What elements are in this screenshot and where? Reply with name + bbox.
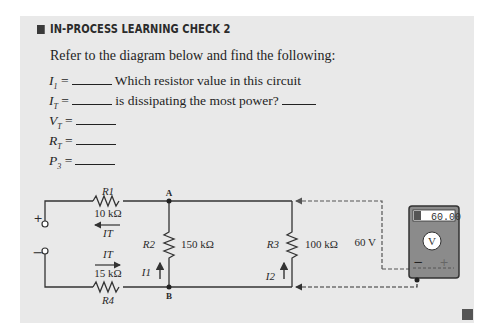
resistor-r1 — [93, 196, 119, 206]
meter-jack-negative — [415, 278, 420, 283]
meter-plus-label: + — [439, 256, 448, 269]
label-r1: R1 — [101, 185, 114, 197]
resistor-r2 — [164, 201, 174, 287]
node-a-dot — [167, 199, 172, 204]
label-node-a: A — [166, 188, 173, 198]
label-i1: I1 — [141, 266, 151, 278]
wire-top-left — [45, 201, 93, 221]
wire-bottom-left — [45, 254, 93, 287]
end-marker-square-icon — [462, 309, 473, 320]
label-r4: R4 — [101, 294, 115, 306]
label-node-b: B — [166, 291, 172, 301]
label-60v: 60 V — [355, 236, 377, 248]
label-i2: I2 — [265, 270, 276, 282]
circuit-diagram: 60.00 V − + R1 10 kΩ IT IT 15 kΩ R4 A B … — [0, 0, 493, 329]
meter-symbol: V — [428, 235, 436, 247]
value-r3: 100 kΩ — [305, 238, 338, 250]
value-r2: 150 kΩ — [181, 238, 214, 250]
label-it-bottom: IT — [102, 248, 114, 260]
value-r1: 10 kΩ — [94, 207, 121, 219]
probe-lead-positive — [296, 201, 382, 269]
resistor-r4 — [93, 282, 119, 292]
meter-minus-label: − — [413, 255, 423, 269]
meter-reading: 60.00 — [431, 212, 461, 223]
probe-lead-negative — [296, 284, 417, 287]
label-r3: R3 — [266, 238, 280, 250]
value-r4: 15 kΩ — [94, 267, 121, 279]
label-r2: R2 — [142, 238, 156, 250]
resistor-r3 — [287, 201, 297, 287]
label-minus: − — [33, 245, 44, 260]
node-b-dot — [167, 285, 172, 290]
label-plus: + — [33, 212, 42, 225]
terminal-plus — [42, 221, 48, 227]
label-it-top: IT — [102, 227, 114, 239]
